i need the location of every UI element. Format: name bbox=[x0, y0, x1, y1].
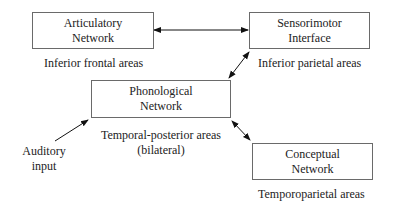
articulatory-caption: Inferior frontal areas bbox=[44, 56, 143, 71]
edge-auditory-input-phonological bbox=[55, 120, 88, 141]
articulatory-title-line2: Network bbox=[72, 31, 114, 46]
phonological-title-line2: Network bbox=[140, 99, 182, 114]
phonological-caption-line2: (bilateral) bbox=[98, 143, 224, 158]
phonological-caption-line1: Temporal-posterior areas bbox=[98, 128, 224, 143]
articulatory-network-box: Articulatory Network bbox=[32, 12, 154, 49]
sensorimotor-caption: Inferior parietal areas bbox=[258, 56, 361, 71]
edge-phonological-conceptual bbox=[232, 121, 250, 140]
sensorimotor-title-line1: Sensorimotor bbox=[277, 16, 342, 31]
phonological-caption: Temporal-posterior areas (bilateral) bbox=[98, 128, 224, 158]
auditory-input-label: Auditory input bbox=[20, 144, 68, 174]
sensorimotor-title-line2: Interface bbox=[288, 31, 331, 46]
auditory-input-line1: Auditory bbox=[20, 144, 68, 159]
articulatory-title-line1: Articulatory bbox=[64, 16, 123, 31]
sensorimotor-interface-box: Sensorimotor Interface bbox=[249, 12, 370, 49]
conceptual-network-box: Conceptual Network bbox=[252, 143, 373, 180]
conceptual-title-line1: Conceptual bbox=[285, 147, 340, 162]
edge-phonological-sensorimotor bbox=[229, 52, 249, 78]
conceptual-caption: Temporoparietal areas bbox=[258, 187, 365, 202]
phonological-title-line1: Phonological bbox=[129, 84, 192, 99]
conceptual-title-line2: Network bbox=[292, 162, 334, 177]
auditory-input-line2: input bbox=[20, 159, 68, 174]
phonological-network-box: Phonological Network bbox=[91, 80, 231, 118]
